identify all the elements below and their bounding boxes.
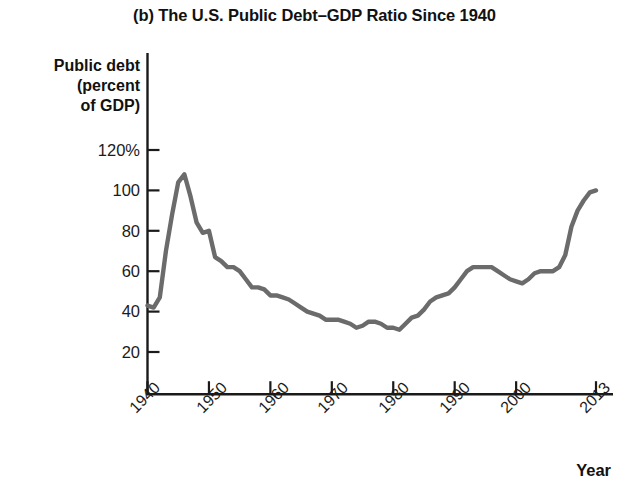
debt-gdp-line: [148, 174, 597, 330]
plot-area: [0, 0, 629, 488]
chart-figure: (b) The U.S. Public Debt–GDP Ratio Since…: [0, 0, 629, 488]
x-axis-tick-marks: [148, 381, 597, 394]
y-axis-tick-marks: [148, 150, 160, 352]
